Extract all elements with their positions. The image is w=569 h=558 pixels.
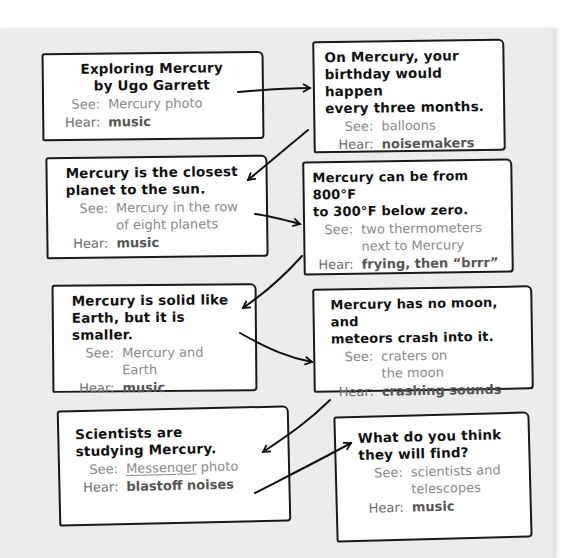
see-value: craters on the moon <box>381 347 448 382</box>
hear-label: Hear: <box>332 383 382 401</box>
hear-label: Hear: <box>314 256 362 274</box>
card-fact: Mercury has no moon, and meteors crash i… <box>330 293 521 347</box>
hear-value: noisemakers <box>382 134 475 152</box>
hear-label: Hear: <box>326 135 382 153</box>
card-fact: Mercury can be from 800°F to 300°F below… <box>312 167 501 221</box>
hear-value: music <box>122 379 165 396</box>
hear-value: blastoff noises <box>126 476 234 495</box>
hear-label: Hear: <box>60 234 116 252</box>
hear-value: music <box>412 497 455 515</box>
storyboard-card-title: Exploring Mercury by Ugo Garrett See: Me… <box>42 51 265 141</box>
hear-row: Hear: music <box>60 233 256 252</box>
see-value: balloons <box>381 117 436 135</box>
storyboard-card-scientists: Scientists are studying Mercury. See: Me… <box>57 405 292 526</box>
hear-row: Hear: music <box>52 112 252 131</box>
card-fact: Mercury is the closest planet to the sun… <box>59 163 255 199</box>
messenger-spacecraft-name: Messenger <box>126 459 197 476</box>
card-fact: Mercury is solid like Earth, but it is s… <box>66 291 245 344</box>
see-value: scientists and telescopes <box>411 461 502 497</box>
see-row: See: Mercury photo <box>52 94 252 113</box>
hear-row: Hear: crashing sounds <box>332 380 522 400</box>
see-row: See: craters on the moon <box>331 345 522 382</box>
hear-value: crashing sounds <box>382 381 502 400</box>
card-fact: What do you think they will find? <box>358 426 519 464</box>
hear-row: Hear: frying, then “brrr” <box>314 254 502 274</box>
see-value: Mercury and Earth <box>122 344 204 379</box>
see-value: Mercury in the row of eight planets <box>116 198 238 233</box>
storyboard-card-solid: Mercury is solid like Earth, but it is s… <box>52 283 258 393</box>
hear-value: frying, then “brrr” <box>362 254 499 273</box>
hear-row: Hear: music <box>66 378 245 397</box>
see-label: See: <box>325 117 381 135</box>
see-value: two thermometers next to Mercury <box>361 219 482 255</box>
see-row: See: two thermometers next to Mercury <box>313 219 501 256</box>
hear-value: music <box>108 113 151 130</box>
card-fact: Exploring Mercury by Ugo Garrett <box>52 59 252 95</box>
see-row: See: Mercury and Earth <box>66 343 245 379</box>
see-row: See: balloons <box>325 116 493 135</box>
hear-value: music <box>116 234 159 252</box>
hear-label: Hear: <box>76 478 126 496</box>
card-fact: Scientists are studying Mercury. <box>75 422 278 461</box>
hear-row: Hear: music <box>360 496 520 517</box>
storyboard-card-birthday: On Mercury, your birthday would happen e… <box>312 39 506 154</box>
see-value: Messenger photo <box>126 458 239 478</box>
storyboard-card-no-moon: Mercury has no moon, and meteors crash i… <box>312 285 534 392</box>
see-label: See: <box>76 460 126 478</box>
see-row: See: scientists and telescopes <box>359 461 520 499</box>
storyboard-card-what-will-they-find: What do you think they will find? See: s… <box>333 411 532 542</box>
see-label: See: <box>331 348 382 383</box>
hear-label: Hear: <box>66 379 122 396</box>
see-value: Mercury photo <box>108 94 203 112</box>
hear-row: Hear: noisemakers <box>326 134 494 153</box>
see-row: See: Mercury in the row of eight planets <box>60 198 256 234</box>
see-label: See: <box>52 95 108 113</box>
storyboard-card-temperature: Mercury can be from 800°F to 300°F below… <box>302 159 514 276</box>
storyboard-card-closest-planet: Mercury is the closest planet to the sun… <box>45 155 268 260</box>
hear-label: Hear: <box>52 113 108 131</box>
see-label: See: <box>359 464 412 499</box>
hear-label: Hear: <box>360 499 412 517</box>
see-label: See: <box>60 200 116 235</box>
hear-row: Hear: blastoff noises <box>76 475 278 497</box>
see-label: See: <box>313 221 361 256</box>
card-fact: On Mercury, your birthday would happen e… <box>324 47 493 117</box>
see-label: See: <box>66 344 122 378</box>
